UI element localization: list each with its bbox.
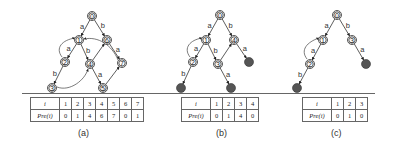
svg-text:4: 4 xyxy=(232,37,236,44)
svg-text:5: 5 xyxy=(101,85,105,92)
svg-text:3: 3 xyxy=(350,37,354,44)
edge-label-c-1-2: a xyxy=(311,46,316,55)
state-node-b-3: 3 xyxy=(214,60,223,69)
cell-i: 2 xyxy=(344,98,356,110)
cell-pre: 0 xyxy=(356,110,368,122)
state-node-a-6: 6 xyxy=(103,36,112,45)
cell-i: 6 xyxy=(120,98,132,110)
svg-text:2: 2 xyxy=(308,61,312,68)
state-node-c-1: 1 xyxy=(319,36,328,45)
svg-text:1: 1 xyxy=(204,37,208,44)
svg-text:3: 3 xyxy=(216,61,220,68)
row-header-pre: Pre(i) xyxy=(31,110,60,122)
edge-label-c-3-t2: a xyxy=(360,45,365,54)
edge-label-a-2-3: b xyxy=(53,69,57,78)
state-node-b-2: 2 xyxy=(189,58,198,67)
state-node-c-0: 0 xyxy=(333,11,342,20)
caption-a: (a) xyxy=(78,128,89,138)
state-node-a-5: 5 xyxy=(99,84,108,93)
terminal-state-c-t1 xyxy=(293,84,302,93)
edge-label-a-0-1: a xyxy=(80,22,85,31)
edge-label-b-4-t3: a xyxy=(243,44,248,53)
edge-label-b-1-2: a xyxy=(194,44,199,53)
edge-label-b-1-3: b xyxy=(213,46,217,55)
terminal-state-b-t3 xyxy=(245,58,254,67)
edge-label-b-0-4: b xyxy=(228,21,232,30)
automaton-diagrams: abababaababbaaababa 01234567012340123 xyxy=(0,0,397,96)
edge-label-a-1-2: a xyxy=(67,44,72,53)
cell-pre: 1 xyxy=(344,110,356,122)
edge-label-c-2-t1: b xyxy=(298,70,302,79)
state-node-b-1: 1 xyxy=(202,36,211,45)
cell-i: 4 xyxy=(247,98,259,110)
table-row-i: i123 xyxy=(303,98,368,110)
svg-text:1: 1 xyxy=(77,37,81,44)
cell-pre: 1 xyxy=(132,110,144,122)
cell-i: 1 xyxy=(211,98,223,110)
cell-i: 5 xyxy=(108,98,120,110)
cell-pre: 0 xyxy=(120,110,132,122)
row-header-pre: Pre(i) xyxy=(182,110,211,122)
cell-pre: 7 xyxy=(108,110,120,122)
svg-text:0: 0 xyxy=(90,13,94,20)
cell-i: 3 xyxy=(356,98,368,110)
row-header-i: i xyxy=(31,98,60,110)
pre-table-c: i123Pre(i)010 xyxy=(302,97,368,122)
svg-text:7: 7 xyxy=(120,60,124,67)
edge-label-c-0-3: b xyxy=(346,21,350,30)
cell-i: 1 xyxy=(60,98,72,110)
state-node-c-2: 2 xyxy=(306,60,315,69)
edge-label-c-0-1: a xyxy=(324,21,329,30)
pre-table-a: i1234567Pre(i)0146701 xyxy=(30,97,144,122)
svg-text:0: 0 xyxy=(218,12,222,19)
edge-a-5-7 xyxy=(106,67,120,85)
edge-a-4-6 xyxy=(93,44,105,61)
state-node-a-0: 0 xyxy=(88,12,97,21)
state-node-a-4: 4 xyxy=(86,60,95,69)
state-node-b-4: 4 xyxy=(230,36,239,45)
svg-text:3: 3 xyxy=(50,85,54,92)
row-header-i: i xyxy=(182,98,211,110)
edge-label-b-0-1: a xyxy=(207,21,212,30)
state-node-a-2: 2 xyxy=(61,58,70,67)
svg-text:0: 0 xyxy=(335,12,339,19)
failure-link-a-3-4 xyxy=(57,69,88,88)
caption-c: (c) xyxy=(331,128,342,138)
cell-i: 2 xyxy=(72,98,84,110)
edge-label-a-0-6: b xyxy=(101,21,105,30)
edge-label-b-3-t2: a xyxy=(226,70,231,79)
svg-text:2: 2 xyxy=(191,59,195,66)
cell-pre: 6 xyxy=(96,110,108,122)
pre-table-b: i1234Pre(i)0140 xyxy=(181,97,259,122)
terminal-state-b-t1 xyxy=(177,84,186,93)
cell-i: 4 xyxy=(96,98,108,110)
edge-label-b-2-t1: b xyxy=(181,69,185,78)
edge-label-a-6-7: a xyxy=(116,45,121,54)
table-row-i: i1234 xyxy=(182,98,259,110)
cell-i: 3 xyxy=(235,98,247,110)
edge-label-a-4-5: a xyxy=(98,70,103,79)
cell-pre: 0 xyxy=(60,110,72,122)
separator-line xyxy=(22,93,375,94)
svg-text:2: 2 xyxy=(63,59,67,66)
state-node-b-0: 0 xyxy=(216,11,225,20)
caption-b: (b) xyxy=(216,128,227,138)
row-header-pre: Pre(i) xyxy=(303,110,332,122)
table-row-pre: Pre(i)010 xyxy=(303,110,368,122)
cell-i: 2 xyxy=(223,98,235,110)
cell-pre: 0 xyxy=(332,110,344,122)
cell-pre: 4 xyxy=(235,110,247,122)
state-node-c-3: 3 xyxy=(348,36,357,45)
edge-b-3-4 xyxy=(220,44,231,61)
cell-pre: 1 xyxy=(72,110,84,122)
svg-text:4: 4 xyxy=(88,61,92,68)
row-header-i: i xyxy=(303,98,332,110)
cell-i: 3 xyxy=(84,98,96,110)
cell-i: 1 xyxy=(332,98,344,110)
cell-i: 7 xyxy=(132,98,144,110)
state-node-a-3: 3 xyxy=(48,84,57,93)
svg-text:6: 6 xyxy=(105,37,109,44)
terminal-state-c-t2 xyxy=(362,60,371,69)
table-row-pre: Pre(i)0140 xyxy=(182,110,259,122)
edge-label-a-1-4: b xyxy=(86,46,90,55)
